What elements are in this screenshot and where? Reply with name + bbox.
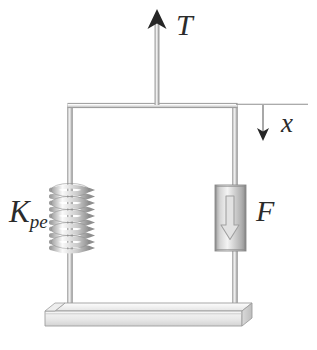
top-crossbar	[68, 103, 238, 108]
tension-rod	[155, 22, 159, 105]
diagram-canvas	[0, 0, 317, 350]
spring-stiffness-subscript: pe	[30, 211, 48, 232]
spring-stiffness-symbol: K	[9, 194, 30, 229]
displacement-arrow	[257, 105, 269, 141]
displacement-label: x	[281, 110, 293, 137]
tension-label: T	[176, 10, 193, 40]
force-label: F	[256, 196, 274, 226]
ground-base-slab	[45, 303, 252, 326]
spring-stiffness-label: Kpe	[9, 196, 48, 231]
mechanical-diagram: T x F Kpe	[0, 0, 317, 350]
